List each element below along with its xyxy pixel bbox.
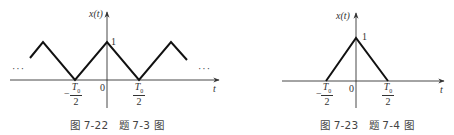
figure-caption: 图 7-23 题 7-4 图	[320, 117, 414, 132]
tick-neg-minus: −	[64, 88, 70, 99]
figure-caption: 图 7-22 题 7-3 图	[70, 117, 164, 132]
x-axis-label: t	[213, 84, 216, 94]
tick-den: 2	[325, 96, 330, 107]
tick-sub: 0	[140, 88, 143, 94]
figure-7-23-plot	[282, 13, 444, 108]
tick-sub: 0	[389, 88, 392, 94]
origin-label: 0	[100, 83, 105, 93]
figure-7-22-plot	[10, 12, 219, 108]
ellipsis-left: ···	[12, 64, 25, 74]
tick-neg-half-period: T0 2	[70, 82, 82, 107]
tick-den: 2	[137, 96, 142, 107]
x-axis-label: t	[440, 85, 443, 95]
peak-value-label: 1	[111, 37, 116, 47]
tick-den: 2	[74, 96, 79, 107]
triangle-wave-signal	[30, 42, 187, 80]
tick-neg-half-period: T0 2	[321, 82, 333, 107]
tick-pos-half-period: T0 2	[133, 82, 145, 107]
tick-sub: 0	[77, 88, 80, 94]
diagram-canvas	[0, 0, 454, 135]
tick-pos-half-period: T0 2	[382, 82, 394, 107]
tick-den: 2	[386, 96, 391, 107]
y-axis-label: x(t)	[336, 11, 350, 21]
tick-sub: 0	[328, 88, 331, 94]
triangle-pulse-signal	[326, 38, 388, 81]
y-axis-label: x(t)	[89, 9, 103, 19]
peak-value-label: 1	[362, 32, 367, 42]
ellipsis-right: ···	[198, 64, 211, 74]
origin-label: 0	[349, 84, 354, 94]
